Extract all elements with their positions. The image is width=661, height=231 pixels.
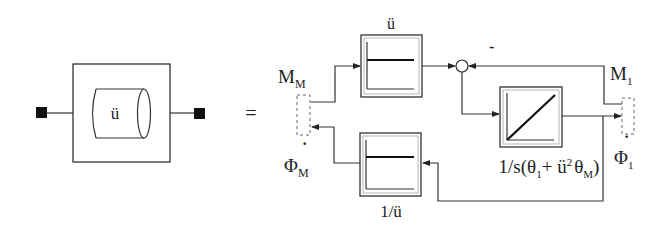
integrator-block[interactable] bbox=[500, 87, 562, 147]
signal-label-phi-m: ΦM bbox=[284, 155, 309, 180]
gain-top-block[interactable] bbox=[361, 35, 422, 97]
wire-mm-to-gain bbox=[311, 66, 360, 102]
signal-label-m-1: M1 bbox=[610, 63, 632, 87]
signal-label-phi-1-dot: · bbox=[624, 128, 629, 145]
wire-gain-to-phim bbox=[312, 127, 360, 163]
gain-bottom-label: 1/ü bbox=[380, 202, 402, 221]
cylinder-icon bbox=[93, 89, 151, 138]
block-diagram: MM · ΦM ü - bbox=[278, 15, 634, 221]
wire-sum-to-integrator bbox=[462, 72, 499, 114]
right-flange-port[interactable] bbox=[194, 108, 205, 119]
signal-label-m-m: MM bbox=[278, 66, 306, 91]
gain-bottom-block[interactable] bbox=[360, 133, 421, 196]
component-frame bbox=[73, 64, 170, 162]
gear-component[interactable]: ü bbox=[36, 64, 205, 162]
component-label: ü bbox=[111, 104, 120, 123]
sum-minus-sign: - bbox=[489, 38, 494, 55]
gain-top-label: ü bbox=[387, 15, 395, 32]
integrator-formula: 1/s(θ1+ ü2θM) bbox=[499, 156, 600, 180]
sum-junction[interactable] bbox=[456, 60, 468, 72]
signal-label-phi-1: Φ1 bbox=[614, 147, 633, 171]
left-flange-port[interactable] bbox=[36, 107, 47, 118]
gear-transmission-diagram: ü = MM · ΦM ü bbox=[0, 0, 661, 231]
left-dashed-port[interactable] bbox=[297, 95, 310, 135]
signal-label-phi-m-dot-dot: · bbox=[302, 135, 307, 152]
equals-sign: = bbox=[245, 102, 256, 124]
